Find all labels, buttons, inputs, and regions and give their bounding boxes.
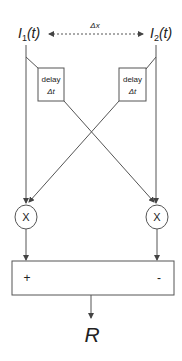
delay-box-right: delay Δt bbox=[119, 68, 146, 101]
input-label-right: I2(t) bbox=[150, 25, 172, 43]
svg-text:delay: delay bbox=[41, 75, 60, 84]
right-branch-line bbox=[146, 57, 156, 69]
subtractor-box: + - bbox=[12, 261, 174, 295]
svg-text:delay: delay bbox=[123, 75, 142, 84]
output-label: R bbox=[84, 323, 99, 346]
delay-box-left: delay Δt bbox=[38, 68, 64, 101]
svg-text:Δt: Δt bbox=[46, 87, 55, 96]
svg-text:Δt: Δt bbox=[128, 87, 137, 96]
input-label-left: I1(t) bbox=[18, 25, 40, 43]
separation-label: Δx bbox=[89, 21, 100, 30]
svg-text:X: X bbox=[22, 211, 30, 223]
right-delayed-cross-line bbox=[29, 101, 119, 202]
multiplier-right: X bbox=[146, 205, 168, 229]
multiplier-left: X bbox=[15, 205, 37, 229]
correlation-diagram: I1(t) I2(t) Δx delay Δt delay Δt X X bbox=[0, 0, 182, 361]
left-delayed-cross-line bbox=[64, 101, 154, 202]
left-branch-line bbox=[26, 57, 39, 69]
svg-text:X: X bbox=[153, 211, 161, 223]
minus-sign: - bbox=[157, 271, 161, 285]
plus-sign: + bbox=[23, 271, 30, 285]
